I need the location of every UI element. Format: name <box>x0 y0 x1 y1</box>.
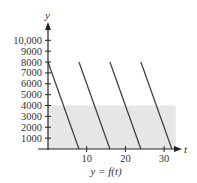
y-tick-label: 8000 <box>21 57 42 68</box>
y-tick-label: 2000 <box>21 122 42 133</box>
x-tick-label: 20 <box>120 153 131 164</box>
y-tick-label: 5000 <box>21 89 42 100</box>
y-tick-label: 7000 <box>21 67 42 78</box>
t-axis-label: t <box>184 143 188 155</box>
y-ticks: 10002000300040005000600070008000900010,0… <box>13 35 51 144</box>
x-tick-label: 30 <box>159 153 170 164</box>
y-tick-label: 3000 <box>21 111 42 122</box>
shaded-region <box>48 106 176 149</box>
sawtooth-chart: 10002000300040005000600070008000900010,0… <box>0 0 197 183</box>
chart-caption: y = f(t) <box>89 165 122 178</box>
y-tick-label: 6000 <box>21 78 42 89</box>
y-axis-label: y <box>44 9 50 21</box>
t-axis-arrow-icon <box>174 146 182 152</box>
y-tick-label: 9000 <box>21 46 42 57</box>
x-tick-label: 10 <box>81 153 92 164</box>
y-tick-label: 4000 <box>21 100 42 111</box>
y-tick-label: 1000 <box>21 133 42 144</box>
y-axis-arrow-icon <box>45 22 51 30</box>
y-tick-label: 10,000 <box>13 35 42 46</box>
